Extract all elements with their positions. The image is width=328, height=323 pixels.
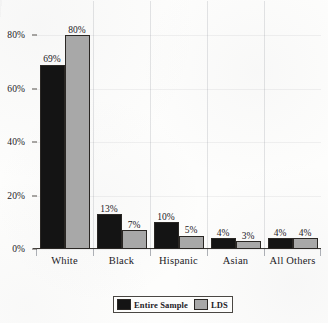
bar-group: 69%80%: [36, 22, 93, 249]
bar-group: 4%3%: [207, 22, 264, 249]
bar-group: 10%5%: [150, 22, 207, 249]
x-axis-tick: [264, 249, 265, 256]
y-axis-tick-label: 0%: [0, 244, 25, 254]
y-axis-tick-label: 80%: [0, 30, 25, 40]
legend-item-lds: LDS: [194, 299, 228, 310]
bar-value-label: 10%: [157, 213, 174, 223]
bar-value-label: 3%: [242, 232, 255, 242]
gridline-horizontal: [36, 249, 321, 250]
x-axis-tick: [93, 249, 94, 256]
bar[interactable]: 10%: [154, 222, 179, 249]
y-axis-tick-label: 20%: [0, 191, 25, 201]
bar-value-label: 7%: [128, 221, 141, 231]
x-axis-tick: [150, 249, 151, 256]
bar[interactable]: 5%: [179, 236, 204, 249]
bar[interactable]: 4%: [268, 238, 293, 249]
x-axis-category-label: Black: [109, 255, 135, 266]
plot-area: 0%20%40%60%80% 69%80%13%7%10%5%4%3%4%4%: [36, 22, 321, 249]
x-axis-tick: [36, 249, 37, 256]
legend-swatch-lds: [194, 299, 208, 310]
x-axis-category-label: Asian: [223, 255, 249, 266]
bar-value-label: 80%: [68, 26, 85, 36]
x-axis-tick: [207, 249, 208, 256]
bar-value-label: 4%: [274, 229, 287, 239]
y-axis-tick-label: 40%: [0, 137, 25, 147]
x-axis-tick: [320, 249, 321, 256]
legend-swatch-entire-sample: [117, 299, 131, 310]
bar[interactable]: 13%: [97, 214, 122, 249]
bar[interactable]: 7%: [122, 230, 147, 249]
grouped-bar-chart: 0%20%40%60%80% 69%80%13%7%10%5%4%3%4%4% …: [0, 0, 328, 323]
bar-value-label: 4%: [299, 229, 312, 239]
bar-group: 13%7%: [93, 22, 150, 249]
bar-value-label: 5%: [185, 226, 198, 236]
bar-value-label: 13%: [100, 205, 117, 215]
bar[interactable]: 80%: [65, 35, 90, 249]
legend-label-lds: LDS: [211, 300, 228, 310]
x-axis-category-label: Hispanic: [159, 255, 198, 266]
bar[interactable]: 69%: [40, 65, 65, 249]
bar-value-label: 69%: [43, 55, 60, 65]
y-axis-tick-label: 60%: [0, 84, 25, 94]
legend-item-entire-sample: Entire Sample: [117, 299, 188, 310]
bar[interactable]: 4%: [293, 238, 318, 249]
bar[interactable]: 3%: [236, 241, 261, 249]
bar-value-label: 4%: [217, 229, 230, 239]
legend-label-entire-sample: Entire Sample: [134, 300, 188, 310]
bar-group: 4%4%: [264, 22, 321, 249]
x-axis-category-label: All Others: [269, 255, 315, 266]
x-axis-category-label: White: [51, 255, 78, 266]
bar[interactable]: 4%: [211, 238, 236, 249]
chart-legend: Entire Sample LDS: [113, 296, 233, 313]
